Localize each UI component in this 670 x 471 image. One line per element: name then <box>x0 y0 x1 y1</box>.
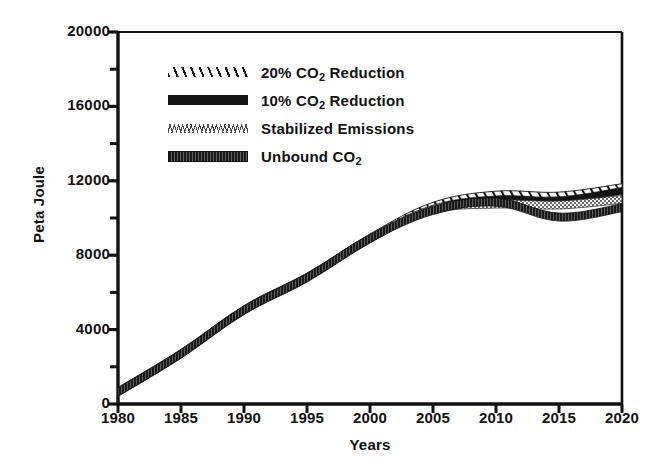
legend-label: 20% CO2 Reduction <box>261 64 405 81</box>
legend-label: 10% CO2 Reduction <box>261 92 405 109</box>
legend-swatch-icon <box>168 151 248 162</box>
legend-item: 10% CO2 Reduction <box>168 86 468 114</box>
chart-figure: Peta Joule Years 20000160001200080004000… <box>0 0 670 471</box>
legend-label: Unbound CO2 <box>261 148 362 165</box>
legend-item: Unbound CO2 <box>168 142 468 170</box>
legend-item: Stabilized Emissions <box>168 114 468 142</box>
series-unbound-co2 <box>118 198 622 396</box>
legend-label: Stabilized Emissions <box>261 120 414 137</box>
legend-swatch-icon <box>168 95 248 105</box>
chart-legend: 20% CO2 Reduction10% CO2 ReductionStabil… <box>168 58 468 170</box>
series-stabilized-emissions <box>118 195 622 396</box>
legend-item: 20% CO2 Reduction <box>168 58 468 86</box>
legend-swatch-icon <box>168 124 248 133</box>
legend-swatch-icon <box>168 67 248 77</box>
data-series-layer <box>118 184 622 397</box>
